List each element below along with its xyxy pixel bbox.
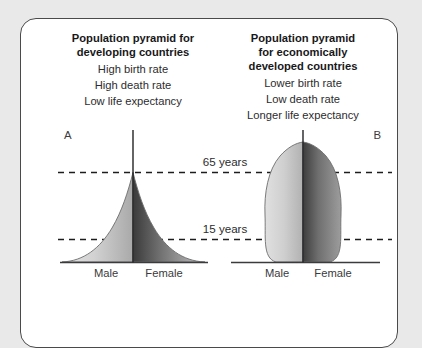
panel-b-female-area bbox=[303, 142, 341, 262]
panel-b-subtitle-line-2: Low death rate bbox=[266, 93, 340, 105]
panel-a-letter: A bbox=[64, 129, 72, 141]
panel-a-title-line-2: developing countries bbox=[77, 46, 190, 58]
panel-b-female-label: Female bbox=[314, 267, 351, 279]
panel-b-letter: B bbox=[373, 129, 381, 141]
panel-a-subtitle-line-3: Low life expectancy bbox=[84, 95, 182, 107]
panel-b-title-line-3: developed countries bbox=[249, 60, 358, 72]
panel-a-subtitle-line-2: High death rate bbox=[95, 79, 172, 91]
panel-b-subtitle-line-1: Lower birth rate bbox=[264, 77, 342, 89]
panel-b-subtitle-line-3: Longer life expectancy bbox=[247, 109, 359, 121]
panel-b-title-line-2: for economically bbox=[259, 46, 349, 58]
panel-b-male-area bbox=[265, 142, 303, 262]
panel-a-subtitle-line-1: High birth rate bbox=[98, 63, 168, 75]
reference-label-15-years: 15 years bbox=[203, 222, 248, 235]
panel-a-male-area bbox=[62, 173, 133, 263]
panel-a-title-line-1: Population pyramid for bbox=[72, 32, 195, 44]
panel-a-female-area bbox=[133, 173, 205, 263]
reference-label-65-years: 65 years bbox=[203, 155, 248, 168]
panel-a-female-label: Female bbox=[145, 267, 182, 279]
panel-b-male-label: Male bbox=[265, 267, 289, 279]
panel-b-title-line-1: Population pyramid bbox=[251, 32, 356, 44]
panel-a-male-label: Male bbox=[94, 267, 118, 279]
